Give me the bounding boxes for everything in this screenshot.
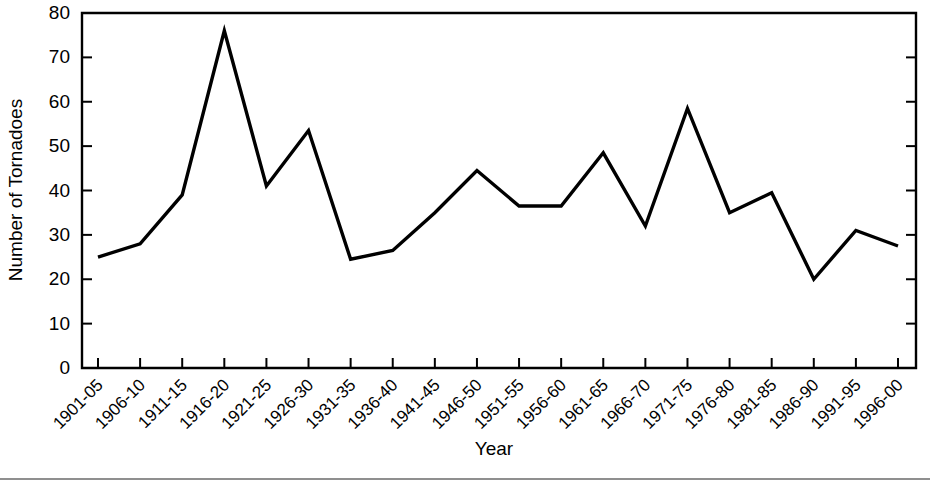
y-axis-tick-label: 20 xyxy=(49,268,70,289)
y-axis-tick-label: 50 xyxy=(49,135,70,156)
series-tornado-count xyxy=(98,31,898,280)
x-axis-tick-labels: 1901-051906-101911-151916-201921-251926-… xyxy=(49,375,907,433)
y-axis-tick-label: 80 xyxy=(49,2,70,23)
y-axis-tick-label: 0 xyxy=(59,357,70,378)
chart-container: 01020304050607080 1901-051906-101911-151… xyxy=(0,0,930,481)
y-axis-tick-label: 70 xyxy=(49,46,70,67)
y-axis-tick-labels: 01020304050607080 xyxy=(49,2,70,378)
y-axis-ticks-right xyxy=(906,57,916,323)
line-chart: 01020304050607080 1901-051906-101911-151… xyxy=(0,0,930,481)
y-axis-tick-label: 40 xyxy=(49,180,70,201)
x-axis-ticks xyxy=(98,358,898,368)
y-axis-tick-label: 60 xyxy=(49,91,70,112)
y-axis-title: Number of Tornadoes xyxy=(5,99,26,281)
y-axis-ticks xyxy=(82,57,92,323)
data-series-group xyxy=(98,31,898,280)
x-axis-title: Year xyxy=(475,438,514,459)
y-axis-tick-label: 10 xyxy=(49,313,70,334)
y-axis-tick-label: 30 xyxy=(49,224,70,245)
